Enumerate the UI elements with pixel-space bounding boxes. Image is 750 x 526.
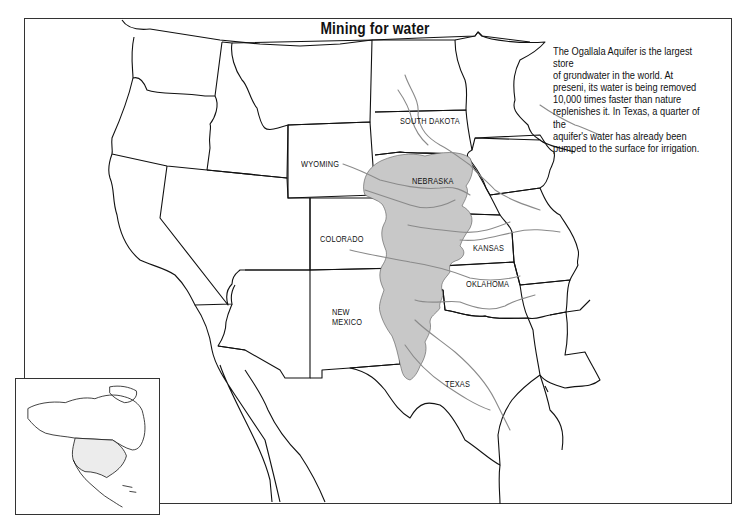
caribbean-islands [122, 485, 136, 492]
usa-outline [72, 438, 126, 477]
label-new-mexico: NEW MEXICO [332, 308, 362, 328]
label-oklahoma: OKLAHOMA [466, 280, 509, 290]
map-title: Mining for water [53, 20, 698, 38]
label-south-dakota: SOUTH DAKOTA [400, 117, 460, 127]
utah-outline [207, 170, 310, 270]
california-outline [109, 154, 235, 305]
arizona-outline [218, 270, 310, 378]
louisiana-outline [540, 312, 600, 388]
mexico-coast [195, 305, 500, 504]
montana-outline [232, 40, 372, 125]
north-america-inset-map [16, 379, 159, 514]
description-text: The Ogallala Aquifer is the largest stor… [553, 46, 715, 155]
north-dakota-outline [372, 40, 467, 112]
oregon-outline [112, 78, 217, 170]
north-america-inset [15, 378, 160, 515]
label-nebraska: NEBRASKA [412, 177, 454, 187]
midwest-east-outline [540, 140, 590, 312]
texas-outline [350, 290, 540, 465]
iowa-outline [472, 135, 555, 195]
kansas-river [460, 230, 560, 241]
nevada-outline [160, 166, 245, 305]
label-texas: TEXAS [445, 380, 470, 390]
greenland-outline [110, 386, 137, 403]
label-kansas: KANSAS [473, 244, 504, 254]
red-river [415, 320, 510, 430]
missouri-outline [490, 188, 579, 285]
label-colorado: COLORADO [320, 235, 364, 245]
label-wyoming: WYOMING [301, 160, 339, 170]
